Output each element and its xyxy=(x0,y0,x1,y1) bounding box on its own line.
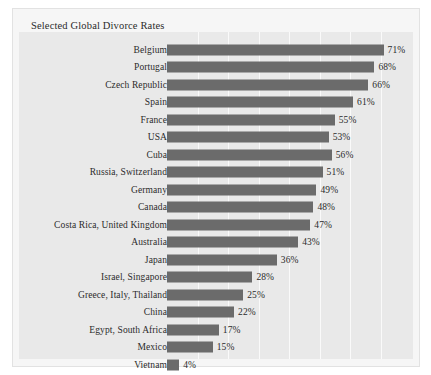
bar xyxy=(167,149,332,160)
bar-value-label: 49% xyxy=(320,185,338,195)
bar-value-label: 55% xyxy=(339,115,357,125)
bar xyxy=(167,289,243,300)
chart-title: Selected Global Divorce Rates xyxy=(31,20,165,31)
category-label: China xyxy=(144,307,167,317)
bar xyxy=(167,62,374,73)
category-label: Belgium xyxy=(134,45,167,55)
bar xyxy=(167,272,252,283)
bar-row: Cuba56% xyxy=(19,146,413,164)
category-label: Egypt, South Africa xyxy=(89,325,167,335)
bar-value-label: 61% xyxy=(357,97,375,107)
bar-row: Belgium71% xyxy=(19,41,413,59)
category-label: Israel, Singapore xyxy=(101,272,167,282)
bar xyxy=(167,167,323,178)
bar xyxy=(167,324,219,335)
bar-value-label: 47% xyxy=(314,220,332,230)
bar-row: France55% xyxy=(19,111,413,129)
bar-row: Czech Republic66% xyxy=(19,76,413,94)
bar-value-label: 25% xyxy=(247,290,265,300)
bar-row: USA53% xyxy=(19,129,413,147)
plot-area: Belgium71%Portugal68%Czech Republic66%Sp… xyxy=(19,32,413,359)
category-label: Spain xyxy=(145,97,167,107)
category-label: Portugal xyxy=(134,62,167,72)
bar-row: Japan36% xyxy=(19,251,413,269)
category-label: Russia, Switzerland xyxy=(90,167,167,177)
category-label: Greece, Italy, Thailand xyxy=(78,290,167,300)
bar-row: Costa Rica, United Kingdom47% xyxy=(19,216,413,234)
category-label: Mexico xyxy=(137,342,167,352)
bar xyxy=(167,219,310,230)
bar-value-label: 43% xyxy=(302,237,320,247)
bar xyxy=(167,114,335,125)
bar-value-label: 22% xyxy=(238,307,256,317)
bar-rows: Belgium71%Portugal68%Czech Republic66%Sp… xyxy=(19,32,413,359)
category-label: Cuba xyxy=(147,150,167,160)
bar-row: Egypt, South Africa17% xyxy=(19,321,413,339)
category-label: Canada xyxy=(138,202,167,212)
category-label: France xyxy=(141,115,167,125)
bar xyxy=(167,342,213,353)
bar-row: Israel, Singapore28% xyxy=(19,269,413,287)
bar xyxy=(167,44,384,55)
bar-row: Russia, Switzerland51% xyxy=(19,164,413,182)
bar-row: China22% xyxy=(19,304,413,322)
category-label: Germany xyxy=(131,185,167,195)
bar-value-label: 53% xyxy=(333,132,351,142)
bar-value-label: 51% xyxy=(327,167,345,177)
bar-row: Vietnam4% xyxy=(19,356,413,374)
bar-value-label: 28% xyxy=(256,272,274,282)
category-label: Australia xyxy=(131,237,167,247)
bar-row: Greece, Italy, Thailand25% xyxy=(19,286,413,304)
bar xyxy=(167,132,329,143)
bar-row: Canada48% xyxy=(19,199,413,217)
category-label: Costa Rica, United Kingdom xyxy=(54,220,167,230)
bar xyxy=(167,79,368,90)
bar-row: Germany49% xyxy=(19,181,413,199)
bar-value-label: 48% xyxy=(317,202,335,212)
bar xyxy=(167,307,234,318)
bar-value-label: 15% xyxy=(217,342,235,352)
bar-row: Australia43% xyxy=(19,234,413,252)
bar xyxy=(167,359,179,370)
bar-value-label: 66% xyxy=(372,80,390,90)
bar-value-label: 56% xyxy=(336,150,354,160)
bar xyxy=(167,184,316,195)
bar-row: Portugal68% xyxy=(19,59,413,77)
bar-value-label: 71% xyxy=(388,45,406,55)
bar xyxy=(167,202,313,213)
chart-card: Selected Global Divorce Rates Belgium71%… xyxy=(12,8,420,367)
bar xyxy=(167,97,353,108)
bar-value-label: 36% xyxy=(281,255,299,265)
bar-value-label: 4% xyxy=(183,360,196,370)
bar xyxy=(167,254,277,265)
category-label: USA xyxy=(148,132,167,142)
bar-row: Spain61% xyxy=(19,94,413,112)
bar-row: Mexico15% xyxy=(19,339,413,357)
bar xyxy=(167,237,298,248)
category-label: Vietnam xyxy=(134,360,167,370)
bar-value-label: 68% xyxy=(378,62,396,72)
category-label: Czech Republic xyxy=(105,80,167,90)
bar-value-label: 17% xyxy=(223,325,241,335)
category-label: Japan xyxy=(145,255,167,265)
